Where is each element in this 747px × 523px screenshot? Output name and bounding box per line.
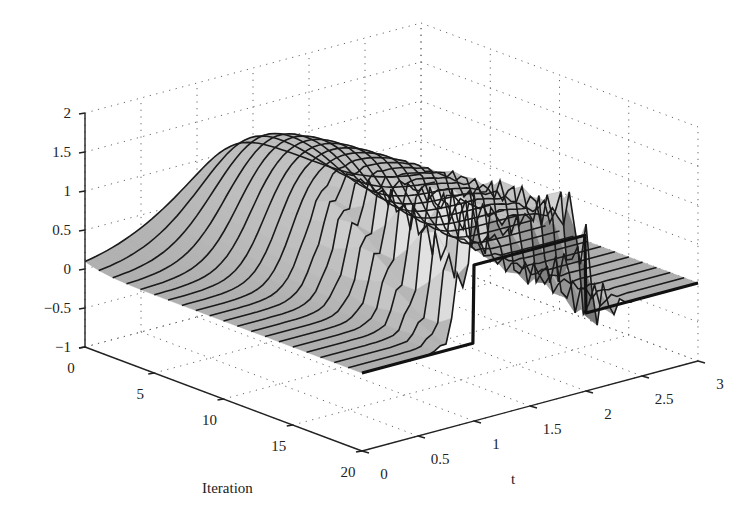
t-tick-label: 2.5 (655, 391, 674, 407)
surface (85, 133, 698, 373)
t-tick-label: 1.5 (543, 421, 562, 437)
z-tick-label: −1 (55, 339, 71, 355)
t-tick-label: 0 (380, 466, 388, 482)
x-tick-label: 20 (341, 464, 356, 480)
x-tick-label: 0 (67, 360, 75, 376)
x-tick-label: 5 (137, 386, 145, 402)
t-tick-label: 1 (492, 436, 500, 452)
t-tick-label: 0.5 (431, 451, 450, 467)
z-tick-label: 1.5 (52, 144, 71, 160)
y-axis-label: t (511, 471, 516, 487)
z-tick-label: 0 (64, 261, 72, 277)
z-tick-label: 2 (64, 105, 72, 121)
x-tick-label: 10 (202, 412, 217, 428)
t-tick-label: 2 (604, 406, 612, 422)
z-tick-label: 1 (64, 183, 72, 199)
x-axis-label: Iteration (202, 480, 253, 496)
z-tick-label: −0.5 (44, 300, 71, 316)
surface-plot: −1−0.500.511.520510152000.511.522.53 Ite… (0, 0, 747, 523)
x-tick-label: 15 (271, 438, 286, 454)
t-tick-label: 3 (716, 376, 724, 392)
z-tick-label: 0.5 (52, 222, 71, 238)
